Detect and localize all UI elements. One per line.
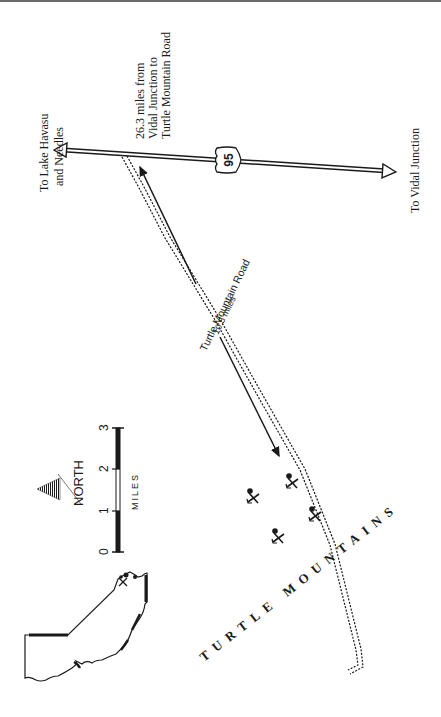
map-canvas: 95 To Lake Havasu and Needles To Vidal J… (0, 0, 441, 717)
scale-tick-0: 0 (97, 548, 111, 555)
svg-text:NORTH: NORTH (71, 460, 86, 506)
north-label: NORTH (71, 460, 86, 506)
svg-text:To Lake Havasu: To Lake Havasu (37, 114, 51, 192)
mine-symbols (247, 473, 321, 543)
mine-icon (286, 473, 298, 488)
scale-tick-3: 3 (97, 424, 111, 431)
mine-icon (247, 488, 259, 503)
scale-unit-label: MILES (130, 473, 140, 510)
mountain-range-label: TURTLE MOUNTAINS (197, 500, 402, 665)
highway-shield-icon: 95 (216, 147, 242, 173)
svg-text:Turtle Mountain Road: Turtle Mountain Road (159, 32, 173, 139)
svg-text:Vidal Junction to: Vidal Junction to (146, 57, 160, 139)
mine-icon (272, 528, 284, 543)
scale-tick-2: 2 (97, 465, 111, 472)
scale-bar (112, 428, 124, 552)
highway-number: 95 (222, 153, 236, 167)
north-destination-label: To Lake Havasu and Needles (37, 114, 66, 192)
scale-tick-1: 1 (97, 507, 111, 514)
scale-ticks: 0 1 2 3 (97, 424, 111, 555)
svg-text:MILES: MILES (130, 473, 140, 510)
svg-text:26.3 miles from: 26.3 miles from (133, 62, 147, 139)
south-destination-label: To Vidal Junction (408, 128, 422, 213)
turtle-mountain-road (122, 156, 363, 674)
svg-text:TURTLE MOUNTAINS: TURTLE MOUNTAINS (197, 500, 402, 665)
mine-icon (309, 506, 321, 521)
distance-arrows (140, 167, 279, 456)
distance-note: 26.3 miles from Vidal Junction to Turtle… (133, 32, 173, 139)
svg-text:and Needles: and Needles (52, 127, 66, 186)
arrow-south-end-icon (382, 164, 396, 178)
svg-text:To Vidal Junction: To Vidal Junction (408, 128, 422, 213)
locator-map (25, 572, 147, 681)
